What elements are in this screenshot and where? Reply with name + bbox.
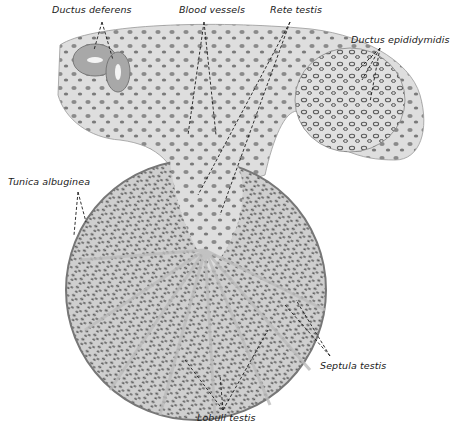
label-ductus-epididymidis: Ductus epididymidis (351, 34, 450, 45)
label-lobuli-testis: Lobuli testis (197, 412, 256, 423)
label-blood-vessels: Blood vessels (179, 4, 245, 15)
label-tunica-albuginea: Tunica albuginea (8, 176, 90, 187)
label-septula-testis: Septula testis (320, 360, 386, 371)
label-rete-testis: Rete testis (270, 4, 322, 15)
epididymis-ring-region (295, 48, 405, 152)
label-ductus-deferens: Ductus deferens (52, 4, 132, 15)
